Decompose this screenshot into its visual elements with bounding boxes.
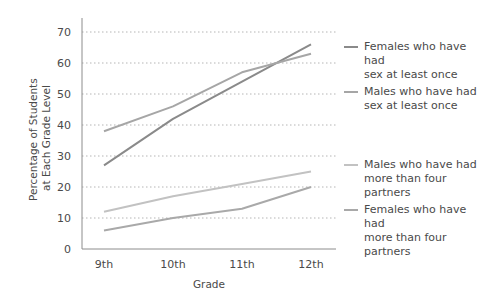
y-tick-label: 60 bbox=[57, 57, 71, 70]
y-axis-title: Percentage of Students at Each Grade Lev… bbox=[27, 75, 52, 201]
y-tick-label: 0 bbox=[64, 243, 71, 256]
y-axis-title-line-2: at Each Grade Level bbox=[40, 85, 52, 191]
y-axis-title-line-1: Percentage of Students bbox=[27, 78, 39, 201]
series-line-1 bbox=[104, 54, 311, 132]
legend-label: sex at least once bbox=[364, 68, 489, 82]
legend-item-females-partners: Females who have had more than four part… bbox=[344, 203, 489, 259]
legend-label: sex at least once bbox=[364, 99, 489, 113]
legend-item-females-sex: Females who have had sex at least once bbox=[344, 40, 489, 82]
legend-swatch-icon bbox=[344, 91, 358, 93]
legend-label: Females who have had bbox=[364, 40, 489, 68]
legend-top: Females who have had sex at least once M… bbox=[344, 40, 489, 116]
x-tick-label: 12th bbox=[298, 258, 323, 271]
y-tick-label: 20 bbox=[57, 181, 71, 194]
x-tick-label: 11th bbox=[229, 258, 254, 271]
x-tick-label: 10th bbox=[160, 258, 185, 271]
legend-item-males-sex: Males who have had sex at least once bbox=[344, 85, 489, 113]
legend-item-males-partners: Males who have had more than four partne… bbox=[344, 158, 489, 200]
legend-label: more than four partners bbox=[364, 231, 489, 259]
legend-label: Females who have had bbox=[364, 203, 489, 231]
legend-label: more than four partners bbox=[364, 172, 489, 200]
y-tick-label: 40 bbox=[57, 119, 71, 132]
series-lines bbox=[104, 44, 311, 230]
y-tick-label: 10 bbox=[57, 212, 71, 225]
legend-bottom: Males who have had more than four partne… bbox=[344, 158, 489, 262]
y-tick-label: 50 bbox=[57, 88, 71, 101]
y-axis-ticks: 010203040506070 bbox=[57, 26, 71, 256]
y-tick-label: 70 bbox=[57, 26, 71, 39]
x-axis-ticks: 9th10th11th12th bbox=[95, 258, 324, 271]
y-tick-label: 30 bbox=[57, 150, 71, 163]
legend-label: Males who have had bbox=[364, 85, 489, 99]
x-axis-title: Grade bbox=[193, 278, 225, 290]
x-tick-label: 9th bbox=[95, 258, 113, 271]
legend-swatch-icon bbox=[344, 164, 358, 166]
series-line-2 bbox=[104, 172, 311, 212]
series-line-3 bbox=[104, 187, 311, 230]
legend-label: Males who have had bbox=[364, 158, 489, 172]
legend-swatch-icon bbox=[344, 46, 358, 48]
legend-swatch-icon bbox=[344, 209, 358, 211]
